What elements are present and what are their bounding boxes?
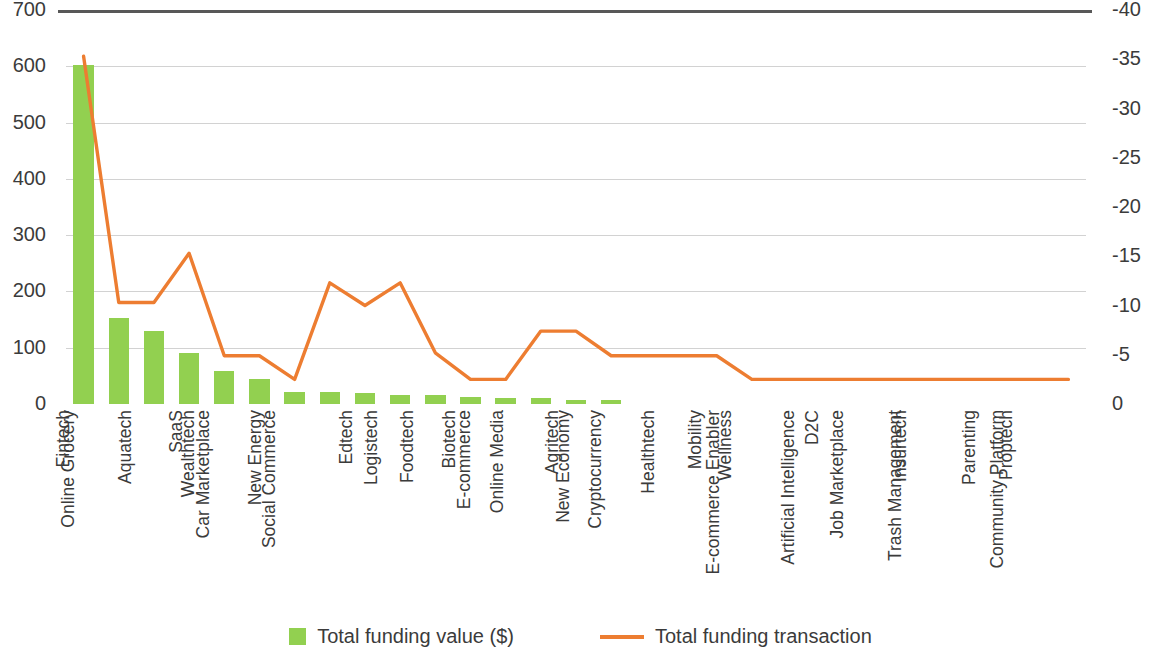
chart-legend: Total funding value ($) Total funding tr… xyxy=(0,618,1161,655)
category-label: New Economy xyxy=(555,410,573,523)
y2-axis-tick: -10 xyxy=(1112,295,1141,315)
y2-axis-tick: -40 xyxy=(1112,0,1141,19)
category-slot: Community Platform xyxy=(1051,404,1086,614)
category-label: E-commerce Enabler xyxy=(705,410,723,574)
square-swatch-icon xyxy=(289,628,306,645)
primary-y-axis: 0100200300400500600700 xyxy=(0,0,52,410)
plot-area xyxy=(66,10,1086,404)
funding-transaction-line xyxy=(84,56,1069,379)
y-axis-tick: 400 xyxy=(13,168,46,188)
y-axis-tick: 700 xyxy=(13,0,46,19)
y2-axis-tick: -30 xyxy=(1112,98,1141,118)
y2-axis-tick: 0 xyxy=(1112,393,1123,413)
y-axis-tick: 0 xyxy=(35,393,46,413)
secondary-y-axis: 0-5-10-15-20-25-30-35-40 xyxy=(1100,0,1161,410)
y2-axis-tick: -25 xyxy=(1112,147,1141,167)
funding-chart: 0100200300400500600700 0-5-10-15-20-25-3… xyxy=(0,0,1161,655)
category-label: Job Marketplace xyxy=(828,410,846,538)
axis-baseline xyxy=(58,10,1092,13)
category-label: E-commerce xyxy=(456,410,474,509)
category-label: Community Platform xyxy=(989,410,1007,569)
y-axis-tick: 500 xyxy=(13,112,46,132)
y-axis-tick: 300 xyxy=(13,224,46,244)
category-label: Cryptocurrency xyxy=(587,410,605,529)
y-axis-tick: 600 xyxy=(13,55,46,75)
line-series xyxy=(66,10,1086,404)
y-axis-tick: 200 xyxy=(13,280,46,300)
category-label: Artificial Intelligence xyxy=(780,410,798,565)
category-label: Online Grocery xyxy=(60,410,78,528)
category-label: D2C xyxy=(805,410,823,445)
category-axis-labels: FintechOnline GroceryAquatechSaaSWealtht… xyxy=(66,404,1086,614)
category-label: Social Commerce xyxy=(261,410,279,548)
line-swatch-icon xyxy=(600,635,644,639)
category-label: Foodtech xyxy=(399,410,417,483)
legend-item-funding-value: Total funding value ($) xyxy=(289,625,514,648)
y2-axis-tick: -5 xyxy=(1112,344,1130,364)
category-label: Edtech xyxy=(338,410,356,464)
y2-axis-tick: -20 xyxy=(1112,196,1141,216)
legend-item-funding-transaction: Total funding transaction xyxy=(600,625,872,648)
category-label: Aquatech xyxy=(117,410,135,484)
category-label: Trash Management xyxy=(887,410,905,561)
category-label: Healthtech xyxy=(640,410,658,494)
y2-axis-tick: -35 xyxy=(1112,48,1141,68)
y2-axis-tick: -15 xyxy=(1112,245,1141,265)
category-label: Online Media xyxy=(489,410,507,513)
category-slot: Proptech xyxy=(1016,404,1051,614)
category-slot: New Energy xyxy=(277,404,312,614)
category-label: Parenting xyxy=(961,410,979,485)
legend-label: Total funding value ($) xyxy=(317,625,514,648)
legend-label: Total funding transaction xyxy=(655,625,872,648)
category-slot: Insurtech xyxy=(910,404,945,614)
category-label: Logistech xyxy=(363,410,381,485)
category-slot: Wellness xyxy=(734,404,769,614)
y-axis-tick: 100 xyxy=(13,337,46,357)
category-label: Car Marketplace xyxy=(195,410,213,538)
